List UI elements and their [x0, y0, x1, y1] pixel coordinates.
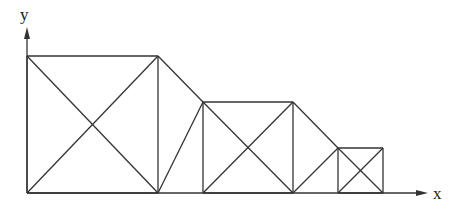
x-axis-arrow-icon	[416, 190, 428, 196]
connector-2	[293, 102, 338, 148]
connector-3	[293, 148, 338, 193]
diagram-drawing	[0, 0, 461, 209]
y-axis-label: y	[20, 6, 29, 23]
connector-0	[158, 56, 203, 102]
truss-diagram: y x	[0, 0, 461, 209]
connector-1	[158, 102, 203, 193]
y-axis-arrow-icon	[24, 27, 30, 39]
x-axis-label: x	[433, 185, 442, 202]
